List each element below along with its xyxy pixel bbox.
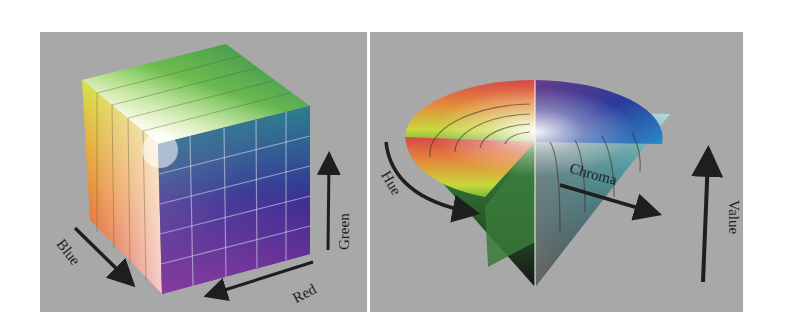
green-axis-label: Green	[336, 213, 353, 250]
hsv-cone-panel: Hue Chroma Value	[370, 32, 743, 312]
rgb-cube-graphic	[40, 32, 367, 312]
value-axis-label: Value	[725, 200, 742, 234]
rgb-cube-panel: Blue Red Green	[40, 32, 367, 312]
value-axis-arrow	[703, 157, 708, 282]
green-axis-arrow	[328, 160, 329, 250]
hsv-cone-graphic	[370, 32, 743, 312]
